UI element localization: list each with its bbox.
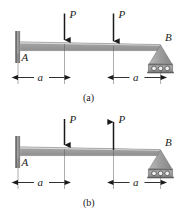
dimension-a-right-label-b: a bbox=[133, 176, 139, 188]
dimension-a-left-label-b: a bbox=[38, 176, 44, 188]
panel-caption-a: (a) bbox=[83, 92, 94, 104]
node-label-a-right: B bbox=[165, 31, 172, 43]
dimension-a-right-label-a: a bbox=[133, 71, 139, 83]
panel-caption-b: (b) bbox=[83, 197, 95, 209]
load-p1-label-b: P bbox=[69, 113, 77, 125]
load-p2-label-b: P bbox=[118, 113, 126, 125]
beam-diagram-figure: P P A B a a (a) bbox=[0, 0, 183, 218]
load-p1-label-a: P bbox=[69, 8, 77, 20]
node-label-b-right: B bbox=[165, 136, 172, 148]
node-label-b-left: A bbox=[21, 156, 29, 168]
figure-background bbox=[0, 0, 183, 218]
load-p2-label-a: P bbox=[118, 8, 126, 20]
dimension-a-left-label-a: a bbox=[38, 71, 44, 83]
node-label-a-left: A bbox=[21, 51, 29, 63]
